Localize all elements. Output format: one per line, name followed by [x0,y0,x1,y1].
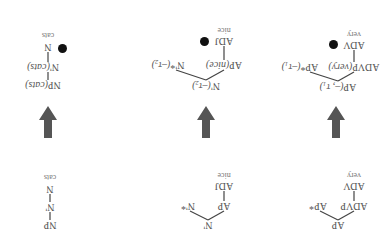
node-root: NP(cats) [25,80,61,90]
arrow-down-icon [39,106,57,138]
node-left: AP [218,201,231,211]
leaf-word: cats [44,173,56,181]
arrow-down-icon [197,106,215,138]
leaf-word: nice [217,26,230,34]
node-root: AP(–, τ₁) [320,82,357,92]
substitution-dot-icon [58,44,67,53]
node-mid: ADV [343,40,365,50]
node-mid: ADJ [215,181,233,191]
substitution-dot-icon [329,40,338,49]
node-left: ADVP [340,201,367,211]
node-root: N' [203,220,212,230]
node-root: NP [44,220,57,230]
node-root: AP [332,220,345,230]
arrow-down-icon [327,106,345,138]
node-mid1: N' [45,202,54,212]
node-mid2: N [46,184,53,194]
leaf-word: very [347,30,361,38]
node-mid: ADJ [215,36,233,46]
node-left: AP(nice) [206,60,242,70]
leaf-word: nice [217,171,230,179]
node-foot: AP*(–τ₁) [282,62,319,72]
substitution-dot-icon [200,37,209,46]
node-foot: N'* [181,201,195,211]
node-foot: AP* [309,201,327,211]
node-mid: ADV [343,181,365,191]
node-foot: N'*(–τ₂) [152,60,185,70]
node-mid2: N [44,42,51,52]
node-left: ADVP(very) [328,62,379,72]
leaf-word: cats [42,31,54,39]
node-root: N'(–τ₂) [192,81,220,91]
node-mid1: N'(cats) [27,62,59,72]
leaf-word: very [347,171,361,179]
